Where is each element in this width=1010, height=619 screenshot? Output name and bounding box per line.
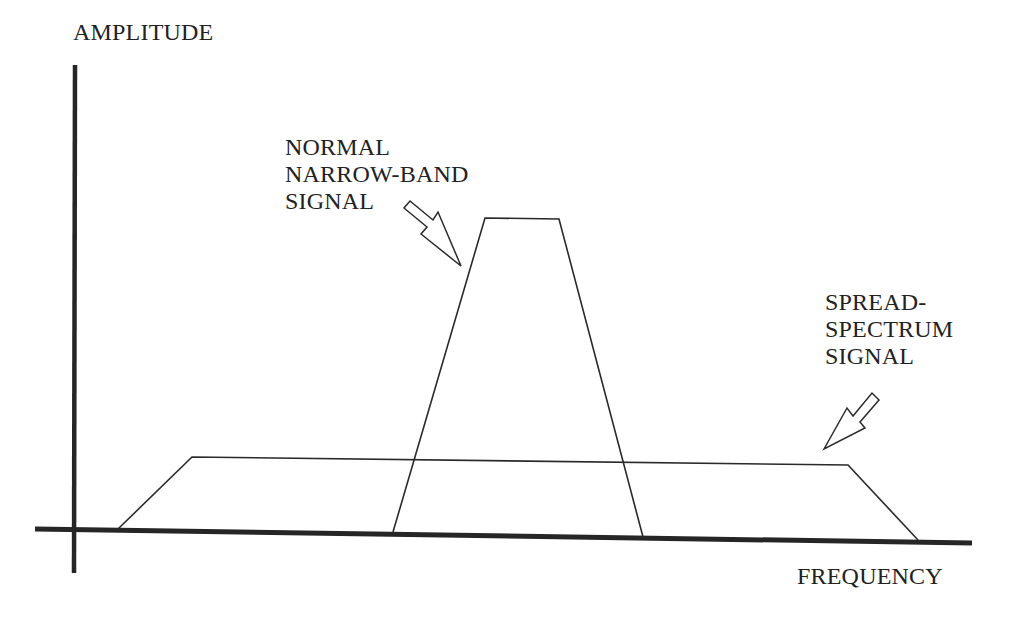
- spread-spectrum-arrow-icon: [824, 393, 879, 449]
- x-axis-label: FREQUENCY: [797, 563, 943, 590]
- spread-spectrum-signal-shape: [118, 457, 918, 540]
- spread-spectrum-label-line-3: SIGNAL: [825, 343, 953, 370]
- spread-spectrum-label-line-1: SPREAD-: [825, 289, 953, 316]
- narrow-band-signal-label: NORMAL NARROW-BAND SIGNAL: [285, 134, 469, 215]
- narrow-band-label-line-2: NARROW-BAND: [285, 161, 469, 188]
- y-axis: [74, 65, 75, 573]
- narrow-band-label-line-1: NORMAL: [285, 134, 469, 161]
- spread-spectrum-label-line-2: SPECTRUM: [825, 316, 953, 343]
- narrow-band-signal-shape: [393, 218, 643, 537]
- x-axis: [35, 529, 972, 543]
- y-axis-label: AMPLITUDE: [73, 19, 213, 46]
- narrow-band-label-line-3: SIGNAL: [285, 188, 469, 215]
- spread-spectrum-signal-label: SPREAD- SPECTRUM SIGNAL: [825, 289, 953, 370]
